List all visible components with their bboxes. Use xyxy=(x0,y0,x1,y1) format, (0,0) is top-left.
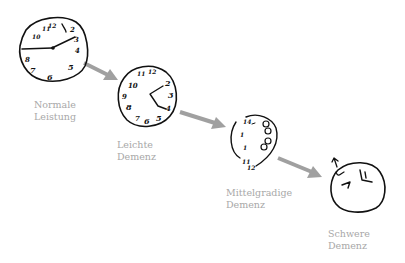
svg-text:8: 8 xyxy=(25,55,30,64)
stage-label-line1: Normale xyxy=(34,99,76,111)
stage-label-moderate: Mittelgradige Demenz xyxy=(226,187,292,211)
svg-text:5: 5 xyxy=(68,62,74,72)
clock-mild-icon: 11 12 10 2 3 4 5 6 7 8 9 xyxy=(118,66,176,126)
svg-text:4: 4 xyxy=(75,46,80,55)
svg-text:8: 8 xyxy=(126,102,132,112)
svg-text:6: 6 xyxy=(47,72,53,82)
diagram-graphics: 11 12 10 2 3 4 5 6 7 8 11 12 10 2 3 4 5 … xyxy=(0,0,405,263)
svg-text:2: 2 xyxy=(164,78,171,88)
stage-label-line1: Mittelgradige xyxy=(226,187,292,199)
clock-severe-icon xyxy=(331,158,385,212)
svg-text:1: 1 xyxy=(243,144,247,151)
stage-label-line2: Demenz xyxy=(328,240,370,252)
svg-text:7: 7 xyxy=(30,65,36,75)
svg-text:5: 5 xyxy=(156,113,162,123)
svg-text:14: 14 xyxy=(243,118,251,125)
stage-label-line1: Leichte xyxy=(117,139,156,151)
svg-text:1: 1 xyxy=(240,131,244,138)
svg-text:12: 12 xyxy=(48,22,56,29)
svg-text:9: 9 xyxy=(122,92,127,101)
svg-text:7: 7 xyxy=(135,114,140,123)
arrow-3-icon xyxy=(278,158,322,178)
stage-label-severe: Schwere Demenz xyxy=(328,228,370,252)
clock-moderate-icon: 14 1 1 11 12 xyxy=(231,115,277,171)
stage-label-mild: Leichte Demenz xyxy=(117,139,156,163)
clock-test-diagram: 11 12 10 2 3 4 5 6 7 8 11 12 10 2 3 4 5 … xyxy=(0,0,405,263)
svg-text:3: 3 xyxy=(168,90,174,100)
svg-text:4: 4 xyxy=(166,104,171,113)
arrow-2-icon xyxy=(180,112,226,129)
svg-text:12: 12 xyxy=(148,68,156,75)
svg-text:10: 10 xyxy=(32,33,41,40)
stage-label-line2: Leistung xyxy=(34,111,76,123)
svg-text:11: 11 xyxy=(137,70,145,77)
svg-text:2: 2 xyxy=(69,25,75,34)
stage-label-line1: Schwere xyxy=(328,228,370,240)
svg-text:6: 6 xyxy=(144,116,150,126)
svg-text:12: 12 xyxy=(247,164,255,171)
clock-normal-icon: 11 12 10 2 3 4 5 6 7 8 xyxy=(20,18,88,82)
svg-text:10: 10 xyxy=(128,81,138,90)
stage-label-line2: Demenz xyxy=(226,199,292,211)
stage-label-line2: Demenz xyxy=(117,151,156,163)
arrow-1-icon xyxy=(84,63,118,80)
stage-label-normal: Normale Leistung xyxy=(34,99,76,123)
